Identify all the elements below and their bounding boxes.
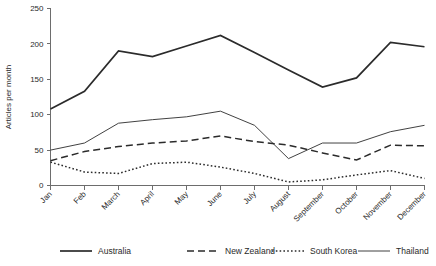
x-tick-label: November — [361, 189, 394, 222]
y-tick-label: 0 — [39, 181, 44, 190]
x-tick-label: Jan — [38, 190, 53, 205]
series-line-new-zealand — [51, 136, 425, 161]
y-tick-label: 250 — [30, 4, 44, 13]
legend-label-thailand: Thailand — [396, 246, 429, 256]
x-tick-label: April — [138, 189, 156, 207]
y-axis-title: Articles per month — [4, 65, 13, 129]
chart-legend: AustraliaNew ZealandSouth KoreaThailand — [60, 246, 429, 256]
x-tick-label: May — [173, 190, 190, 207]
legend-label-new-zealand: New Zealand — [225, 246, 275, 256]
x-tick-label: July — [241, 190, 257, 206]
series-line-australia — [51, 35, 425, 109]
x-tick-label: August — [268, 189, 293, 214]
x-tick-label: October — [333, 189, 360, 216]
y-tick-label: 50 — [35, 146, 44, 155]
x-tick-label: March — [100, 190, 122, 212]
y-tick-label: 150 — [30, 75, 44, 84]
x-tick-label: Feb — [72, 189, 89, 206]
chart-canvas: 050100150200250 JanFebMarchAprilMayJuneJ… — [0, 0, 436, 266]
y-axis: 050100150200250 — [30, 4, 50, 190]
line-chart: 050100150200250 JanFebMarchAprilMayJuneJ… — [0, 0, 436, 266]
x-tick-label: September — [292, 189, 326, 223]
series-line-south-korea — [51, 162, 425, 182]
legend-label-south-korea: South Korea — [310, 246, 358, 256]
legend-label-australia: Australia — [98, 246, 131, 256]
x-tick-label: June — [205, 189, 224, 208]
y-tick-label: 200 — [30, 40, 44, 49]
series-lines — [51, 35, 425, 182]
series-line-thailand — [51, 111, 425, 158]
x-axis: JanFebMarchAprilMayJuneJulyAugustSeptemb… — [38, 186, 428, 224]
x-tick-label: December — [395, 189, 428, 222]
y-tick-label: 100 — [30, 110, 44, 119]
